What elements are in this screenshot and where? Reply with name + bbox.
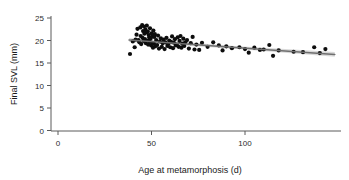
data-point	[247, 51, 251, 55]
y-axis-ticks: 0510152025	[35, 14, 51, 136]
data-point	[192, 47, 196, 51]
data-point	[323, 47, 327, 51]
data-point	[267, 43, 271, 47]
y-tick-label: 20	[35, 37, 44, 46]
y-tick-label: 10	[35, 82, 44, 91]
data-point	[271, 54, 275, 58]
data-point	[162, 47, 166, 51]
axes-group: 0510152025 050100	[35, 14, 341, 148]
data-point	[145, 24, 149, 28]
data-point	[220, 48, 224, 52]
x-axis-ticks: 050100	[56, 131, 252, 148]
plot-area	[128, 23, 335, 58]
data-point	[191, 35, 195, 39]
y-tick-label: 25	[35, 14, 44, 23]
data-point	[134, 33, 138, 37]
x-axis-title: Age at metamorphosis (d)	[138, 165, 242, 175]
data-point	[155, 43, 159, 47]
data-point	[312, 45, 316, 49]
data-point	[211, 40, 215, 44]
y-tick-label: 15	[35, 59, 44, 68]
data-point	[185, 38, 189, 42]
data-point	[197, 48, 201, 52]
data-point	[151, 29, 155, 33]
data-point	[200, 41, 204, 45]
x-tick-label: 0	[56, 139, 61, 148]
scatter-plot-figure: 0510152025 050100 Age at metamorphosis (…	[0, 0, 349, 180]
x-tick-label: 50	[147, 139, 156, 148]
y-tick-label: 0	[40, 127, 45, 136]
data-point	[128, 52, 132, 56]
data-point	[187, 47, 191, 51]
data-point	[181, 37, 185, 41]
y-tick-label: 5	[40, 104, 45, 113]
x-tick-label: 100	[238, 139, 252, 148]
data-point	[133, 45, 137, 49]
y-axis-title: Final SVL (mm)	[9, 43, 19, 105]
